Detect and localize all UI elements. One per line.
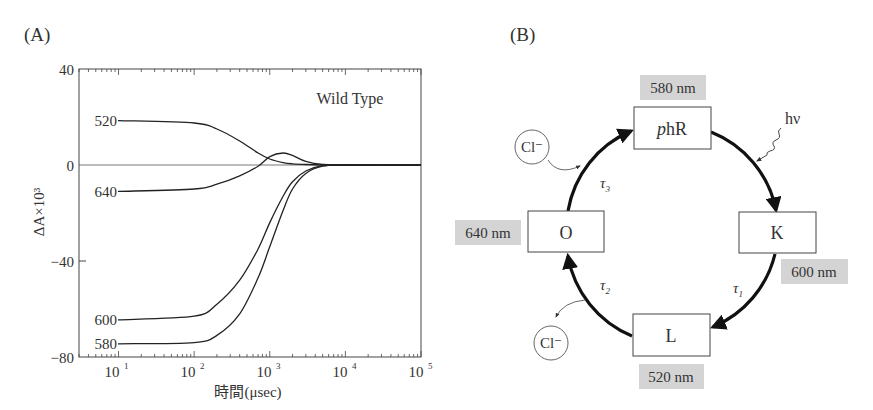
state-phR: phR: [634, 107, 711, 149]
arrow-K-to-L: [713, 254, 775, 327]
light-input: hν: [757, 110, 800, 161]
wavelength-520: 520 nm: [639, 364, 704, 389]
y-axis-title: ΔA×10³: [31, 187, 47, 236]
x-tick-1e5: 105: [409, 361, 434, 380]
series-600-line: [118, 165, 421, 320]
svg-text:K: K: [771, 223, 784, 243]
y-tick-neg40: −40: [51, 254, 74, 270]
svg-text:5: 5: [428, 361, 433, 371]
y-tick-0: 0: [67, 158, 75, 174]
arrow-L-to-O: [568, 256, 632, 336]
svg-text:phR: phR: [655, 119, 687, 139]
series-label-600: 600: [95, 312, 118, 328]
svg-text:1: 1: [124, 361, 129, 371]
series-labels: 520 640 600 580: [95, 113, 118, 352]
tau-labels: τ3 τ2 τ1: [600, 175, 743, 299]
hv-label: hν: [785, 110, 800, 127]
state-O: O: [528, 211, 604, 252]
tau2-label: τ2: [600, 277, 610, 296]
wavelength-600: 600 nm: [781, 259, 848, 284]
wild-type-annotation: Wild Type: [317, 90, 384, 108]
y-tick-labels: 40 0 −40 −80: [51, 62, 74, 366]
svg-text:4: 4: [352, 361, 357, 371]
series-lines: [118, 121, 421, 344]
x-tick-1e3: 103: [257, 361, 282, 380]
wavelength-640: 640 nm: [455, 220, 521, 245]
state-L: L: [633, 314, 710, 356]
x-ticks: [79, 69, 421, 357]
svg-text:3: 3: [276, 361, 281, 371]
chloride-label-top: Cl⁻: [521, 139, 543, 155]
x-tick-labels: 101 102 103 104 105: [105, 361, 434, 380]
x-axis-title: 時間(μsec): [214, 384, 281, 401]
photocycle-diagram: 580 nm 600 nm 520 nm 640 nm phR K L: [455, 75, 848, 389]
svg-text:10: 10: [181, 364, 196, 380]
plot-frame: [79, 69, 421, 357]
y-tick-neg80: −80: [51, 350, 74, 366]
svg-text:580 nm: 580 nm: [650, 80, 696, 96]
y-tick-40: 40: [59, 62, 74, 78]
svg-text:10: 10: [257, 364, 272, 380]
tau1-label: τ1: [733, 280, 743, 299]
series-label-640: 640: [95, 184, 118, 200]
release-arrow: [556, 300, 585, 317]
tau3-label: τ3: [600, 175, 610, 194]
series-520-line: [118, 121, 421, 165]
series-label-520: 520: [95, 113, 118, 129]
state-K: K: [739, 212, 816, 253]
x-tick-1e1: 101: [105, 361, 129, 380]
x-tick-1e2: 102: [181, 361, 205, 380]
chloride-uptake: Cl⁻: [515, 130, 580, 170]
svg-text:520 nm: 520 nm: [648, 369, 694, 385]
svg-text:2: 2: [200, 361, 205, 371]
svg-text:10: 10: [333, 364, 348, 380]
chloride-release: Cl⁻: [534, 300, 585, 360]
svg-text:10: 10: [409, 364, 424, 380]
svg-text:O: O: [560, 223, 573, 243]
svg-text:600 nm: 600 nm: [791, 264, 837, 280]
svg-text:L: L: [666, 326, 677, 346]
arrow-O-to-phR: [568, 131, 631, 211]
wavy-light-icon: [757, 128, 781, 161]
arrow-phR-to-K: [711, 132, 776, 210]
x-tick-1e4: 104: [333, 361, 358, 380]
series-580-line: [118, 165, 421, 344]
series-label-580: 580: [95, 336, 118, 352]
uptake-arrow: [548, 160, 580, 170]
chloride-label-bottom: Cl⁻: [540, 335, 562, 351]
chart-panel-a: 40 0 −40 −80 101 102 103 104 105 時間(μsec…: [0, 0, 873, 410]
wavelength-580: 580 nm: [640, 75, 706, 100]
svg-text:640 nm: 640 nm: [465, 225, 511, 241]
svg-text:10: 10: [105, 364, 120, 380]
